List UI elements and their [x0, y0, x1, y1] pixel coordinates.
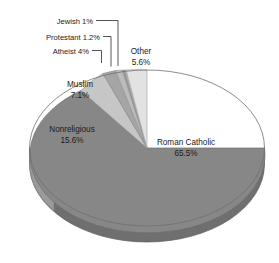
callout-leader-lines — [92, 21, 118, 67]
pie-slices — [30, 70, 265, 233]
pie-chart-svg: Jewish 1% Protestant 1.2% Atheist 4% Oth… — [0, 0, 279, 263]
label-jewish: Jewish 1% — [57, 17, 94, 26]
label-nonreligious-name: Nonreligious — [49, 125, 95, 134]
label-roman-catholic-name: Roman Catholic — [157, 138, 215, 147]
label-nonreligious-value: 15.6% — [60, 136, 83, 145]
label-muslim-name: Muslim — [67, 80, 93, 89]
leader-line-atheist — [92, 51, 102, 64]
callout-labels: Jewish 1% Protestant 1.2% Atheist 4% — [46, 17, 100, 56]
label-other-name: Other — [131, 47, 152, 56]
label-roman-catholic-value: 65.5% — [174, 149, 197, 158]
label-atheist: Atheist 4% — [53, 47, 90, 56]
pie-chart: Jewish 1% Protestant 1.2% Atheist 4% Oth… — [0, 0, 279, 263]
leader-line-protestant — [103, 37, 111, 67]
label-other-value: 5.6% — [132, 58, 151, 67]
label-muslim-value: 7.1% — [71, 91, 90, 100]
label-protestant: Protestant 1.2% — [46, 33, 100, 42]
leader-line-jewish — [96, 21, 118, 67]
